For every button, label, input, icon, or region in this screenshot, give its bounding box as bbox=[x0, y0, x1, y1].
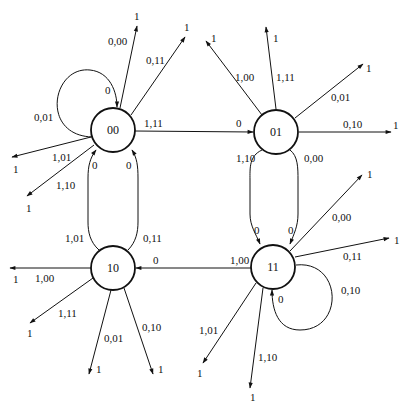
edge-label: 0 bbox=[288, 224, 294, 236]
output-label: 1 bbox=[393, 119, 399, 131]
state-label: 01 bbox=[270, 125, 282, 139]
state-label: 00 bbox=[107, 123, 119, 137]
output-label: 1 bbox=[13, 273, 19, 285]
edge-label: 0,00 bbox=[108, 35, 128, 47]
output-label: 1 bbox=[27, 327, 33, 339]
state-node-00: 00 bbox=[91, 108, 135, 152]
edge-label: 1,11 bbox=[58, 307, 77, 319]
edge-label: 1,01 bbox=[199, 324, 218, 336]
edge-label: 1,00 bbox=[235, 71, 255, 83]
edge-label: 1,11 bbox=[144, 117, 163, 129]
edge-label: 1,10 bbox=[236, 152, 256, 164]
edge-label: 1,01 bbox=[65, 232, 84, 244]
output-label: 1 bbox=[273, 32, 279, 44]
edge-label: 0 bbox=[105, 84, 111, 96]
edge-label: 0,11 bbox=[143, 232, 162, 244]
state-01-edges: 1,00 1 1,11 1 0,01 1 0,10 1 1,10 0 0,00 … bbox=[206, 27, 399, 244]
edge-label: 0,10 bbox=[343, 118, 363, 130]
edge-label: 0,00 bbox=[332, 211, 352, 223]
edge-label: 1,00 bbox=[230, 254, 250, 266]
edge-label: 0,10 bbox=[142, 321, 162, 333]
output-label: 1 bbox=[367, 168, 373, 180]
edge-label: 0,01 bbox=[104, 332, 123, 344]
output-label: 1 bbox=[96, 363, 102, 375]
edge-label: 1,10 bbox=[56, 179, 76, 191]
edge-label: 0 bbox=[278, 293, 284, 305]
output-label: 1 bbox=[366, 62, 372, 74]
edge-label: 0,01 bbox=[331, 91, 350, 103]
output-label: 1 bbox=[394, 234, 400, 246]
arrow-out bbox=[250, 288, 263, 388]
edge-label: 0,10 bbox=[341, 284, 361, 296]
output-label: 1 bbox=[250, 391, 256, 403]
output-label: 1 bbox=[13, 163, 19, 175]
output-label: 1 bbox=[134, 10, 140, 22]
edge-label: 0 bbox=[254, 224, 260, 236]
output-label: 1 bbox=[26, 202, 32, 214]
edge-label: 0 bbox=[92, 159, 98, 171]
arrow-out bbox=[203, 283, 256, 363]
edge-label: 0 bbox=[236, 117, 242, 129]
state-node-01: 01 bbox=[254, 110, 298, 154]
state-00-edges: 0,01 0 0,00 1 0,11 1 1,01 1 1,10 1 1,11 … bbox=[12, 10, 253, 214]
edge-label: 1,01 bbox=[52, 151, 71, 163]
edge-label: 0,01 bbox=[34, 111, 53, 123]
output-label: 1 bbox=[184, 21, 190, 33]
edge-label: 0 bbox=[153, 254, 159, 266]
state-diagram: 0,01 0 0,00 1 0,11 1 1,01 1 1,10 1 1,11 … bbox=[0, 0, 405, 408]
state-label: 10 bbox=[107, 261, 119, 275]
state-label: 11 bbox=[267, 260, 279, 274]
edge-label: 0,00 bbox=[304, 152, 324, 164]
edge-label: 0 bbox=[126, 159, 132, 171]
state-10-edges: 1,01 0 0,11 0 1,00 1 1,11 1 0,01 1 0,10 … bbox=[10, 150, 164, 375]
transition-00-to-01 bbox=[135, 131, 253, 132]
edge-label: 1,00 bbox=[35, 272, 55, 284]
edge-label: 1,10 bbox=[258, 351, 278, 363]
state-node-11: 11 bbox=[251, 245, 295, 289]
edge-label: 0,11 bbox=[343, 250, 362, 262]
arrow-out bbox=[295, 64, 363, 118]
arrow-out bbox=[131, 37, 185, 115]
output-label: 1 bbox=[197, 367, 203, 379]
edge-label: 0,11 bbox=[146, 54, 165, 66]
arrow-out bbox=[295, 238, 389, 257]
output-label: 1 bbox=[211, 32, 217, 44]
edge-label: 1,11 bbox=[276, 71, 295, 83]
state-node-10: 10 bbox=[91, 246, 135, 290]
output-label: 1 bbox=[158, 363, 164, 375]
